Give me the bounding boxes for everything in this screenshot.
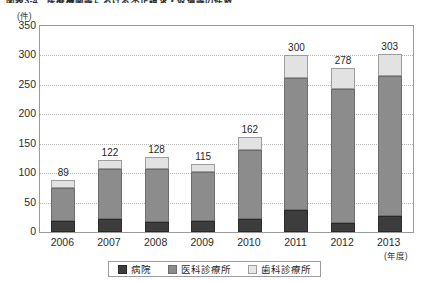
bar-total-label-2013: 303 bbox=[368, 41, 412, 52]
x-axis-tick-label-2008: 2008 bbox=[134, 236, 178, 248]
x-axis-tick-label-2006: 2006 bbox=[40, 236, 84, 248]
bar-segment-病院-2011 bbox=[284, 210, 308, 232]
bar-segment-病院-2007 bbox=[98, 219, 122, 232]
bar-total-label-2008: 128 bbox=[135, 144, 179, 155]
bar-segment-医科診療所-2008 bbox=[145, 169, 169, 222]
legend-item-病院[interactable]: 病院 bbox=[118, 262, 151, 276]
bar-segment-医科診療所-2011 bbox=[284, 78, 308, 210]
bar-total-label-2006: 89 bbox=[41, 167, 85, 178]
bar-segment-歯科診療所-2012 bbox=[331, 68, 355, 89]
bar-segment-医科診療所-2012 bbox=[331, 89, 355, 223]
y-axis-tick-label: 50 bbox=[2, 196, 36, 208]
bar-segment-医科診療所-2009 bbox=[191, 172, 215, 221]
legend-label: 病院 bbox=[131, 262, 151, 276]
y-axis-tick-label: 300 bbox=[2, 48, 36, 60]
bar-total-label-2010: 162 bbox=[228, 124, 272, 135]
bar-total-label-2011: 300 bbox=[274, 42, 318, 53]
bar-segment-病院-2008 bbox=[145, 222, 169, 232]
bar-segment-医科診療所-2013 bbox=[378, 76, 402, 215]
x-axis-tick-label-2013: 2013 bbox=[367, 236, 411, 248]
y-axis-tick-label: 250 bbox=[2, 78, 36, 90]
x-axis-tick-labels: 20062007200820092010201120122013 bbox=[39, 236, 414, 250]
bar-total-label-2012: 278 bbox=[321, 55, 365, 66]
bar-2006[interactable]: 89 bbox=[51, 180, 75, 232]
bar-2009[interactable]: 115 bbox=[191, 164, 215, 232]
bar-segment-病院-2013 bbox=[378, 216, 402, 232]
x-axis-tick-label-2009: 2009 bbox=[180, 236, 224, 248]
bar-segment-病院-2010 bbox=[238, 219, 262, 232]
x-axis-tick-label-2007: 2007 bbox=[87, 236, 131, 248]
bar-2011[interactable]: 300 bbox=[284, 55, 308, 232]
bar-segment-病院-2006 bbox=[51, 221, 75, 232]
bar-2010[interactable]: 162 bbox=[238, 137, 262, 232]
bar-segment-病院-2009 bbox=[191, 221, 215, 232]
bar-2007[interactable]: 122 bbox=[98, 160, 122, 232]
bar-segment-歯科診療所-2009 bbox=[191, 164, 215, 172]
y-axis-tick-label: 100 bbox=[2, 166, 36, 178]
figure-root: 図表3-4 医療機関等における不正請求・返還等の件数 (件) 050100150… bbox=[0, 0, 425, 282]
bar-segment-医科診療所-2006 bbox=[51, 188, 75, 221]
bar-segment-歯科診療所-2011 bbox=[284, 55, 308, 77]
legend-swatch-dental-icon bbox=[248, 265, 257, 274]
bar-segment-歯科診療所-2010 bbox=[238, 137, 262, 150]
bar-segment-医科診療所-2010 bbox=[238, 150, 262, 219]
legend-item-歯科診療所[interactable]: 歯科診療所 bbox=[248, 262, 311, 276]
bar-segment-歯科診療所-2006 bbox=[51, 180, 75, 189]
bar-total-label-2007: 122 bbox=[88, 147, 132, 158]
bar-series-container: 89122128115162300278303 bbox=[40, 26, 413, 232]
legend-swatch-medical-icon bbox=[168, 265, 177, 274]
bar-2012[interactable]: 278 bbox=[331, 68, 355, 232]
bar-total-label-2009: 115 bbox=[181, 151, 225, 162]
y-axis-tick-label: 0 bbox=[2, 225, 36, 237]
x-axis-tick-label-2011: 2011 bbox=[273, 236, 317, 248]
bar-segment-歯科診療所-2013 bbox=[378, 54, 402, 76]
y-axis-tick-label: 200 bbox=[2, 107, 36, 119]
bar-segment-歯科診療所-2007 bbox=[98, 160, 122, 169]
y-axis-tick-labels: 050100150200250300350 bbox=[0, 25, 36, 233]
x-axis-tick-label-2010: 2010 bbox=[227, 236, 271, 248]
x-axis-tick-label-2012: 2012 bbox=[320, 236, 364, 248]
figure-title: 図表3-4 医療機関等における不正請求・返還等の件数 bbox=[6, 0, 233, 3]
x-axis-unit-label: (年度) bbox=[384, 249, 408, 261]
bar-2013[interactable]: 303 bbox=[378, 54, 402, 232]
bar-segment-病院-2012 bbox=[331, 223, 355, 232]
y-axis-tick-label: 150 bbox=[2, 137, 36, 149]
bar-segment-歯科診療所-2008 bbox=[145, 157, 169, 169]
legend-label: 歯科診療所 bbox=[261, 262, 311, 276]
legend-swatch-hospital-icon bbox=[118, 265, 127, 274]
chart-legend: 病院医科診療所歯科診療所 bbox=[108, 261, 321, 277]
legend-label: 医科診療所 bbox=[181, 262, 231, 276]
plot-area: 89122128115162300278303 bbox=[39, 25, 414, 233]
legend-item-医科診療所[interactable]: 医科診療所 bbox=[168, 262, 231, 276]
y-axis-tick-label: 350 bbox=[2, 19, 36, 31]
bar-2008[interactable]: 128 bbox=[145, 157, 169, 232]
bar-segment-医科診療所-2007 bbox=[98, 169, 122, 219]
